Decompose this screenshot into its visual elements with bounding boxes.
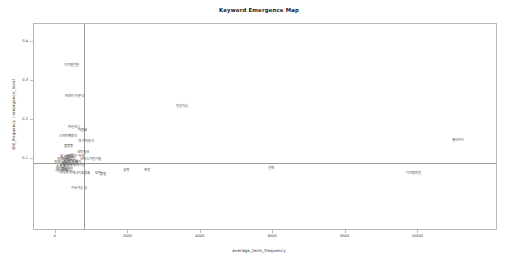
- data-point-label: 클라우드: [452, 139, 464, 142]
- data-point-label: 인공지능: [176, 105, 188, 108]
- y-axis-label: std_frequency / emergence_level: [11, 55, 16, 175]
- data-point-label: 빅데이터분석: [65, 95, 84, 98]
- y-axis-tick: [30, 119, 33, 120]
- vertical-reference-line: [84, 24, 85, 229]
- x-axis-tick-label: 6000: [268, 234, 277, 238]
- plot-area: 디지털전환빅데이터분석인공지능머신러닝자동화스마트팩토리클라우드데이터분석플랫폼…: [33, 23, 497, 230]
- y-axis-tick-label: 0.2: [22, 117, 28, 121]
- horizontal-reference-line: [34, 163, 496, 164]
- data-point-label: 디지털전환: [64, 64, 80, 67]
- y-axis-tick-label: 0.4: [22, 39, 28, 43]
- data-point-label: 전략: [268, 167, 274, 170]
- data-point-label: 데이터분석: [78, 141, 94, 144]
- y-axis-tick: [30, 158, 33, 159]
- x-axis-tick-label: 8000: [340, 234, 349, 238]
- page-title: Keyword Emergence Map: [0, 7, 518, 13]
- y-axis-tick-label: 0.3: [22, 78, 28, 82]
- y-axis-tick-label: 0.1: [22, 156, 28, 160]
- y-axis-tick: [30, 41, 33, 42]
- data-point-label: 디지털트윈: [406, 172, 422, 175]
- x-axis-tick-label: 2000: [123, 234, 132, 238]
- data-point-label: 품질: [100, 173, 106, 176]
- x-axis-tick-label: 0: [54, 234, 56, 238]
- data-point-label: 자동화: [78, 129, 87, 132]
- data-point-label: 스마트팩토리: [59, 136, 78, 139]
- data-point-label: 서비스기반기술: [80, 158, 102, 161]
- x-axis-tick-label: 4000: [195, 234, 204, 238]
- x-axis-tick: [345, 230, 346, 233]
- figure-canvas: Keyword Emergence Map 디지털전환빅데이터분석인공지능머신러…: [0, 0, 518, 266]
- x-axis-tick: [200, 230, 201, 233]
- data-point-label: 에너지효율화: [72, 173, 91, 176]
- data-point-label: 측정: [144, 169, 150, 172]
- x-axis-label: average_term_frequency: [0, 248, 518, 253]
- x-axis-tick-label: 10000: [412, 234, 423, 238]
- data-point-label: 지속가능성: [71, 188, 87, 191]
- data-point-label: 증강현실: [60, 171, 72, 174]
- x-axis-tick: [55, 230, 56, 233]
- x-axis-tick: [272, 230, 273, 233]
- data-point-label: 플랫폼: [64, 145, 73, 148]
- x-axis-tick: [127, 230, 128, 233]
- y-axis-tick: [30, 80, 33, 81]
- data-point-label: 설계: [123, 170, 129, 173]
- x-axis-tick: [417, 230, 418, 233]
